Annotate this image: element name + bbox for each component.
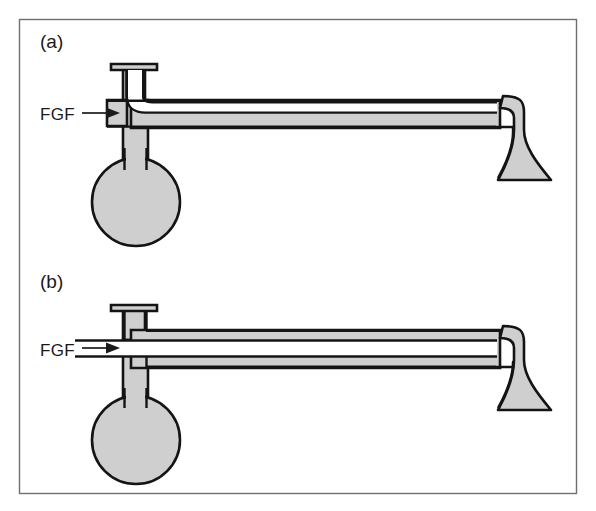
t-piece-cap-b (111, 305, 157, 311)
panel-b-label: (b) (40, 271, 63, 292)
inner-tube-lower-wall-a-top (143, 71, 497, 102)
breathing-system-figure: (a) FGF (0, 0, 596, 511)
t-piece-cap-a (111, 64, 157, 70)
figure-root: (a) FGF (0, 0, 596, 511)
panel-a: (a) FGF (40, 31, 551, 246)
inner-tube-lumen-a (128, 70, 497, 113)
neck-bag-blend-a (126, 155, 145, 168)
reservoir-bag-a (92, 158, 180, 246)
panel-a-label: (a) (40, 31, 63, 52)
inner-tube-lumen-b (75, 340, 497, 356)
panel-b: (b) FGF (40, 271, 551, 484)
fgf-label-a: FGF (40, 105, 75, 124)
patient-mask-cone-a (498, 96, 551, 180)
fgf-label-b: FGF (40, 341, 75, 360)
reservoir-bag-b (92, 396, 180, 484)
neck-bag-blend-b (126, 393, 145, 406)
